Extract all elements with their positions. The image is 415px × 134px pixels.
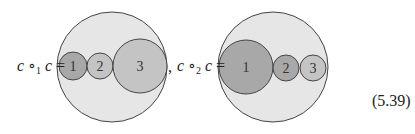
equation-lhs-1: c ∘1 c = [17,57,65,76]
diagram-c-circ2-c: 1 2 3 [218,12,328,122]
operad-composition-figure: 1 2 3 1 2 3 c ∘1 c = , c ∘2 c = (5.39) [0,0,415,134]
disk-label-2: 2 [97,59,104,74]
disk-label-1: 1 [243,60,250,75]
disk-label-2: 2 [283,61,290,76]
equation-separator: , [168,58,172,75]
disk-label-3: 3 [137,59,144,74]
disk-label-1: 1 [70,59,77,74]
equation-number: (5.39) [372,92,411,110]
diagram-c-circ1-c: 1 2 3 [57,12,167,122]
equation-lhs-2: c ∘2 c = [177,57,225,76]
disk-label-3: 3 [310,61,317,76]
